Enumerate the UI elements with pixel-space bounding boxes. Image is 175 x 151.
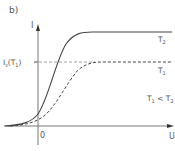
curve-t1-label: T1 bbox=[157, 66, 166, 76]
saturation-current-label: Is(T1) bbox=[3, 58, 22, 68]
x-axis-arrow-icon bbox=[167, 124, 174, 128]
temperature-condition: T1 < T2 bbox=[146, 94, 174, 104]
y-axis-arrow-icon bbox=[36, 24, 40, 31]
x-axis-label: U bbox=[169, 132, 175, 141]
curve-t2-label: T2 bbox=[157, 35, 166, 45]
y-axis-label: I bbox=[31, 21, 33, 30]
panel-label: b) bbox=[9, 5, 18, 15]
iv-diagram: b) I U 0 Is(T1) T2 T1 T1 < T2 bbox=[0, 0, 175, 151]
origin-label: 0 bbox=[40, 131, 45, 140]
curve-t2 bbox=[5, 32, 172, 126]
